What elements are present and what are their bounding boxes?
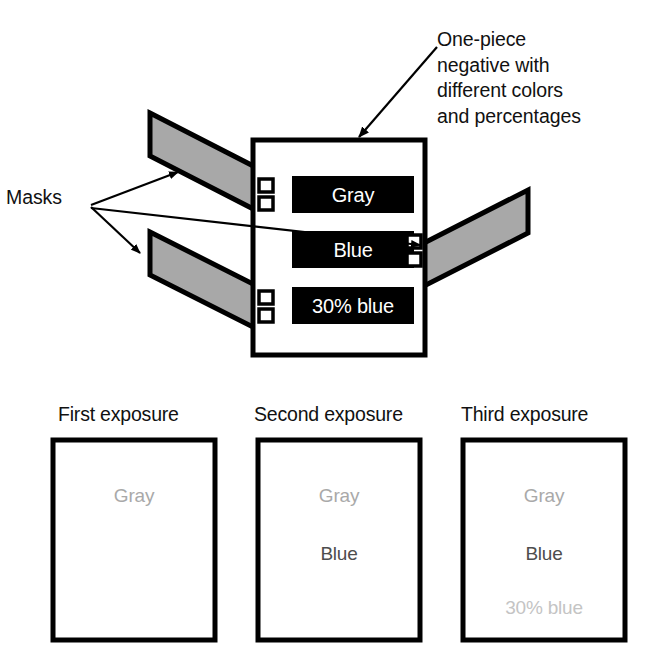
exposure-panel-frame-1: [53, 440, 215, 640]
exposure-title-1: First exposure: [58, 403, 179, 426]
negative-chip-label-30-blue: 30% blue: [292, 295, 414, 318]
exposure-2-line-blue: Blue: [258, 543, 420, 565]
exposure-3-line-blue: Blue: [463, 543, 625, 565]
negative-chip-label-gray: Gray: [292, 184, 414, 207]
upper-left-mask: [150, 113, 261, 213]
figure-root: One-piece negative with different colors…: [0, 0, 660, 672]
exposure-panel-frame-2: [258, 440, 420, 640]
negative-callout-text: One-piece negative with different colors…: [437, 27, 581, 129]
exposure-title-2: Second exposure: [254, 403, 403, 426]
negative-callout-arrow: [359, 47, 437, 137]
exposure-title-3: Third exposure: [461, 403, 588, 426]
negative-chip-label-blue: Blue: [292, 239, 414, 262]
lower-left-mask: [150, 232, 261, 331]
exposure-2-line-gray: Gray: [258, 485, 420, 507]
masks-label: Masks: [6, 186, 62, 209]
right-mask: [424, 190, 528, 286]
exposure-3-line-30-blue: 30% blue: [463, 597, 625, 619]
exposure-1-line-gray: Gray: [53, 485, 215, 507]
exposure-3-line-gray: Gray: [463, 485, 625, 507]
